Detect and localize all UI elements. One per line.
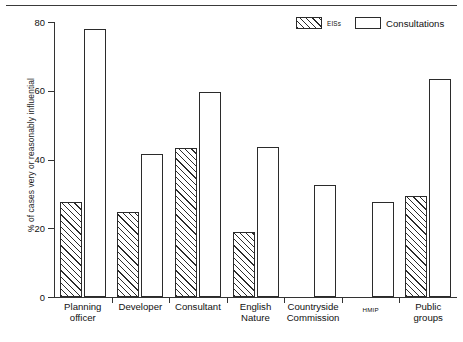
bar-eiss-planning-officer bbox=[60, 202, 82, 297]
chart-legend: EISsConsultations bbox=[296, 15, 444, 31]
x-axis-label-public-groups: Publicgroups bbox=[368, 301, 463, 324]
chart-figure: % of cases very or reasonably influentia… bbox=[0, 0, 463, 342]
top-rule-divider bbox=[6, 5, 457, 6]
legend-item-consultations: Consultations bbox=[355, 17, 444, 29]
bar-consultations-consultant bbox=[199, 92, 221, 297]
bar-eiss-english-nature bbox=[233, 232, 255, 297]
x-axis-label-line: officer bbox=[23, 312, 143, 323]
y-axis-tick-label: 60 bbox=[35, 85, 45, 96]
legend-label: Consultations bbox=[386, 18, 444, 29]
x-axis-line bbox=[54, 297, 457, 298]
y-axis-tick: 0 bbox=[48, 297, 55, 298]
bar-consultations-planning-officer bbox=[84, 29, 106, 297]
bar-consultations-developer bbox=[141, 154, 163, 297]
bar-consultations-hmip bbox=[372, 202, 394, 297]
x-axis-label-line: Public bbox=[368, 301, 463, 312]
legend-label: EISs bbox=[327, 20, 341, 27]
bar-consultations-countryside-commission bbox=[314, 185, 336, 297]
plot-area bbox=[54, 22, 457, 297]
legend-item-eiss: EISs bbox=[296, 17, 341, 29]
y-axis-tick-label: 40 bbox=[35, 154, 45, 165]
y-axis-tick-label: 80 bbox=[35, 17, 45, 28]
bar-consultations-english-nature bbox=[257, 147, 279, 297]
legend-swatch-open bbox=[355, 17, 381, 29]
legend-swatch-hatched bbox=[296, 17, 322, 29]
bar-eiss-public-groups bbox=[405, 196, 427, 297]
x-axis-label-line: groups bbox=[368, 312, 463, 323]
bar-eiss-consultant bbox=[175, 148, 197, 297]
y-axis-tick-label: 20 bbox=[35, 223, 45, 234]
bar-eiss-developer bbox=[117, 212, 139, 297]
bar-consultations-public-groups bbox=[429, 79, 451, 297]
